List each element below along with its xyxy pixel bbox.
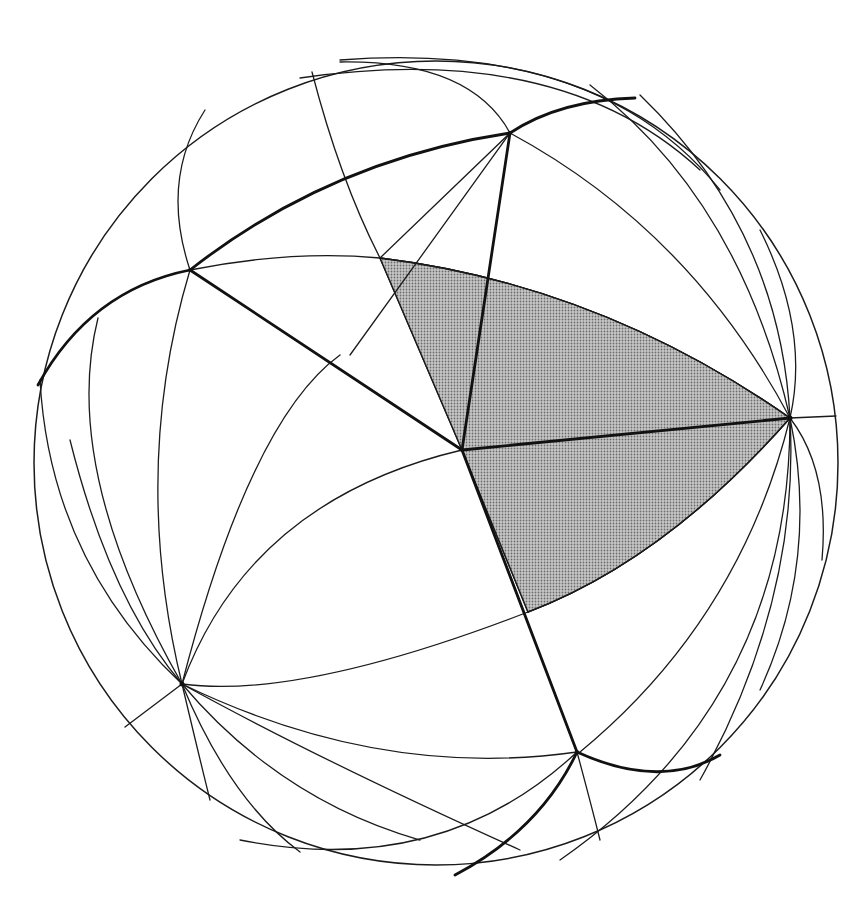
right-pole-vertex	[788, 416, 793, 421]
upper-left-vertex	[188, 268, 192, 272]
lower-left-pole-vertex	[180, 682, 185, 687]
lower-vertex	[575, 750, 579, 754]
sphere-diagram	[0, 0, 865, 907]
top-vertex	[508, 131, 512, 135]
center-vertex	[460, 448, 464, 452]
